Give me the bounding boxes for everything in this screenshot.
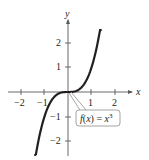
svg-text:1: 1 (56, 61, 61, 72)
svg-text:−2: −2 (50, 135, 61, 146)
svg-text:2: 2 (112, 97, 117, 108)
x-tick-labels: −2 −1 1 2 (14, 97, 117, 108)
y-axis-label: y (64, 8, 70, 19)
svg-text:−1: −1 (50, 111, 61, 122)
svg-text:−2: −2 (14, 97, 25, 108)
svg-text:−1: −1 (37, 97, 48, 108)
function-graph: x y −2 −1 1 2 2 1 −1 −2 f(x) = x3 (0, 0, 149, 160)
y-tick-labels: 2 1 −1 −2 (50, 37, 61, 146)
function-callout-label: f(x) = x3 (80, 112, 113, 125)
svg-text:1: 1 (88, 97, 93, 108)
x-axis-label: x (135, 86, 141, 97)
callout-leader (69, 92, 86, 110)
svg-text:2: 2 (56, 37, 61, 48)
